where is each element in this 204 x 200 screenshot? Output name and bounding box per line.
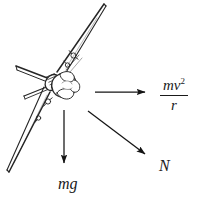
label-centripetal-force: mv2 r xyxy=(160,78,188,113)
fraction-numerator: mv2 xyxy=(160,78,188,94)
numerator-base: mv xyxy=(163,77,181,93)
vector-normal-arrow xyxy=(88,111,145,154)
label-weight-force: mg xyxy=(58,176,78,192)
label-normal-force: N xyxy=(159,158,170,174)
numerator-exponent: 2 xyxy=(181,76,186,86)
airplane-illustration xyxy=(7,4,106,172)
fraction-mv2-over-r: mv2 r xyxy=(160,78,188,113)
airplane-fuselage xyxy=(52,72,80,100)
fraction-denominator: r xyxy=(160,97,188,113)
fraction-bar xyxy=(160,95,188,96)
airplane-tail-boom xyxy=(66,55,82,72)
figure-canvas: mv2 r N mg xyxy=(0,0,204,200)
